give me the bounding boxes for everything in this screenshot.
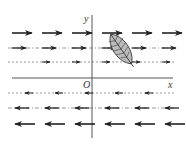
x-axis-label: x xyxy=(167,79,173,90)
flow-rows xyxy=(8,33,185,124)
origin-label: O xyxy=(83,79,90,90)
leaf-icon xyxy=(104,30,140,72)
shear-flow-diagram: y O x xyxy=(0,0,186,144)
y-axis-label: y xyxy=(83,13,89,24)
